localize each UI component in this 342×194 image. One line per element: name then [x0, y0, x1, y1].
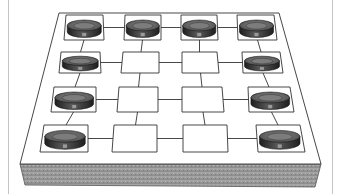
board-front-edge — [20, 164, 321, 187]
checker-piece[interactable] — [45, 130, 85, 149]
board-square[interactable] — [182, 87, 224, 112]
board-square[interactable] — [183, 125, 228, 152]
checker-piece[interactable] — [260, 130, 300, 149]
board-square[interactable] — [117, 87, 158, 112]
board-square[interactable] — [182, 52, 219, 73]
checker-piece[interactable] — [183, 20, 216, 38]
checker-piece[interactable] — [245, 56, 280, 71]
checker-piece[interactable] — [126, 20, 159, 38]
board-square[interactable] — [112, 125, 157, 152]
board-square[interactable] — [121, 52, 159, 73]
checker-piece[interactable] — [55, 92, 94, 110]
checker-piece[interactable] — [239, 20, 273, 37]
checker-piece[interactable] — [67, 20, 101, 37]
checker-piece[interactable] — [62, 56, 98, 71]
checker-piece[interactable] — [251, 92, 290, 110]
game-board — [0, 0, 342, 194]
